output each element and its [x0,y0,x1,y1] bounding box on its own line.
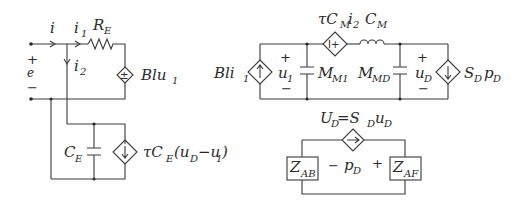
svg-text:1: 1 [81,28,87,39]
svg-text:E: E [74,153,83,164]
terminal-bottom [29,97,33,101]
svg-text:=S: =S [337,109,360,127]
svg-text:D: D [366,118,375,129]
svg-text:+: + [372,156,383,171]
svg-text:±: ± [120,70,128,81]
svg-text:E: E [165,153,174,164]
resistor-re [88,39,125,67]
label-i: i [50,19,55,37]
svg-text:D: D [189,153,198,164]
svg-text:−: − [27,80,38,95]
label-zab: Z [289,158,301,176]
svg-text:M1: M1 [331,73,349,84]
label-tcm-i2: τC [318,10,338,28]
label-i2: i [74,57,79,75]
svg-text:+: + [280,50,291,65]
circuit-diagram: i i 1 R E i 2 + e − ± Blu 1 C E τC E (u … [0,0,525,205]
label-tce: τC [143,143,163,161]
label-blu1: Blu [140,66,166,84]
svg-text:2: 2 [352,19,359,30]
inductor-cm [360,40,384,44]
svg-text:AB: AB [300,168,316,179]
svg-text:−: − [328,158,339,173]
middle-circuit: Bli 1 + u 1 − M M1 τC M i 2 I+ C M M MD … [213,10,501,101]
svg-text:+: + [417,50,428,65]
svg-text:+: + [27,52,38,67]
svg-text:D: D [383,118,392,129]
lower-left-circuit: C E τC E (u D −u 1 ) [51,122,228,180]
svg-text:D: D [352,165,361,176]
svg-text:−: − [418,81,429,96]
label-re: R [92,16,104,34]
terminal-top [29,42,33,46]
label-bli1: Bli [213,64,235,82]
svg-text:−: − [281,81,292,96]
lower-right-circuit: U D =S D u D − p D + Z AB Z AF [287,109,421,194]
label-cm: C [365,10,377,28]
svg-text:): ) [221,143,228,161]
svg-text:E: E [103,25,112,36]
label-i1: i [74,19,79,37]
label-sdpd: S [464,64,474,82]
svg-text:1: 1 [243,73,249,84]
svg-text:D: D [473,73,482,84]
svg-text:MD: MD [371,73,390,84]
svg-text:(u: (u [174,143,190,161]
svg-text:2: 2 [79,66,86,77]
label-zaf: Z [392,158,404,176]
svg-text:1: 1 [172,75,178,86]
svg-text:I+: I+ [328,39,339,50]
svg-text:D: D [492,73,501,84]
label-e: e [27,66,34,80]
svg-text:AF: AF [403,168,419,179]
svg-text:M: M [376,19,388,30]
